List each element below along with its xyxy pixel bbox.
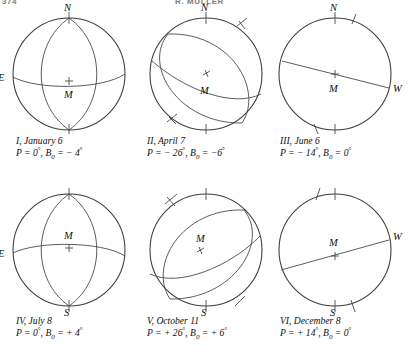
east-label: E: [0, 248, 5, 259]
B0-value-IV: + 4: [66, 327, 80, 338]
disk-diagram-I: M N E: [2, 4, 140, 136]
north-label: N: [200, 2, 209, 13]
panel-caption-V: V, October 11 P = + 26°, B0 = + 6°: [147, 315, 277, 339]
panel-caption-II: II, April 7 P = − 26°, B0 = −6°: [147, 135, 277, 159]
panel-II: M N II, April 7 P = − 26°, B0 = −6°: [139, 4, 277, 179]
P-value-V: + 26: [164, 327, 182, 338]
B0-value-II: −6: [211, 147, 222, 158]
solar-orientation-figure: M N E I, January 6 P = 0°, B0 = − 4°: [0, 0, 415, 361]
disk-center-marker: [65, 244, 73, 252]
solar-disk-outline: [13, 18, 125, 130]
central-meridian: [41, 18, 97, 130]
central-meridian: [163, 210, 252, 299]
solar-disk-outline: [279, 194, 391, 306]
caption-title-II: II, April 7: [147, 135, 185, 146]
panel-caption-III: III, June 6 P = − 14°, B0 = 0°: [280, 135, 410, 159]
disk-center-label: M: [63, 230, 74, 241]
caption-title-IV: IV, July 8: [16, 315, 52, 326]
disk-center-label: M: [63, 89, 74, 100]
caption-title-I: I, January 6: [16, 135, 63, 146]
west-label: W: [393, 231, 403, 242]
B0-value-I: − 4: [66, 147, 80, 158]
east-label: E: [0, 72, 5, 83]
disk-center-label: M: [328, 83, 339, 94]
north-label: N: [63, 2, 72, 13]
disk-diagram-III: M N W: [272, 4, 410, 136]
panel-V: M S V, October 11 P = + 26°, B0 = + 6°: [139, 184, 277, 359]
caption-params-II: P = − 26°, B0 = −6°: [147, 147, 277, 159]
disk-center-marker: [197, 247, 204, 254]
disk-diagram-V: M S: [139, 184, 277, 316]
caption-params-III: P = − 14°, B0 = 0°: [280, 147, 410, 159]
panel-caption-VI: VI, December 8 P = + 14°, B0 = 0°: [280, 315, 410, 339]
disk-diagram-VI: M W S: [272, 184, 410, 316]
disk-center-marker: [203, 70, 210, 77]
caption-title-VI: VI, December 8: [280, 315, 340, 326]
disk-center-label: M: [195, 233, 206, 244]
disk-diagram-II: M N: [139, 4, 277, 136]
P-value-VI: + 14: [297, 327, 315, 338]
B0-value-V: + 6: [211, 327, 225, 338]
panel-VI: M W S VI, December 8 P = + 14°, B0 = 0°: [272, 184, 410, 359]
disk-center-marker: [65, 77, 73, 85]
P-value-III: − 14: [297, 147, 315, 158]
disk-center-label: M: [328, 237, 339, 248]
disk-center-label: M: [199, 85, 210, 96]
rotation-axis-ticks: [316, 188, 355, 312]
north-label: N: [329, 2, 338, 13]
panel-IV: M E S IV, July 8 P = 0°, B0 = + 4°: [2, 184, 140, 359]
caption-params-VI: P = + 14°, B0 = 0°: [280, 327, 410, 339]
central-meridian: [160, 34, 249, 123]
west-label: W: [393, 83, 403, 94]
P-value-II: − 26: [164, 147, 182, 158]
rotation-axis-ticks: [165, 194, 245, 306]
disk-center-marker: [331, 70, 339, 78]
caption-params-I: P = 0°, B0 = − 4°: [16, 147, 146, 159]
disk-center-marker: [331, 252, 339, 260]
caption-params-IV: P = 0°, B0 = + 4°: [16, 327, 146, 339]
disk-diagram-IV: M E S: [2, 184, 140, 316]
panel-III: M N W III, June 6 P = − 14°, B0 = 0°: [272, 4, 410, 179]
panel-caption-IV: IV, July 8 P = 0°, B0 = + 4°: [16, 315, 146, 339]
caption-params-V: P = + 26°, B0 = + 6°: [147, 327, 277, 339]
panel-caption-I: I, January 6 P = 0°, B0 = − 4°: [16, 135, 146, 159]
panel-I: M N E I, January 6 P = 0°, B0 = − 4°: [2, 4, 140, 179]
caption-title-III: III, June 6: [280, 135, 320, 146]
caption-title-V: V, October 11: [147, 315, 199, 326]
